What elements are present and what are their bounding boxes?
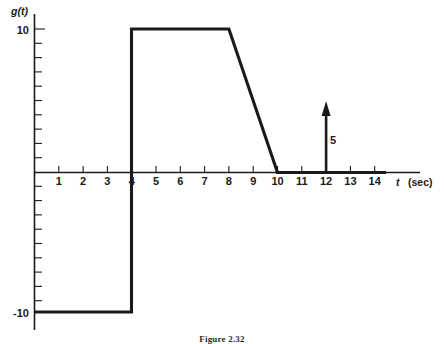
x-tick-label-12: 12 [320,175,332,187]
x-tick-label-14: 14 [369,175,382,187]
figure-caption: Figure 2.32 [0,333,444,344]
x-axis-title-group: t (sec) [396,172,432,189]
chart-plot: 5 1 2 3 4 5 6 7 8 9 10 11 12 13 14 10 -1… [0,0,444,344]
y-axis-title: g(t) [10,5,28,17]
x-tick-label-6: 6 [177,175,183,187]
impulse-weight-label: 5 [330,134,336,146]
x-tick-label-13: 13 [344,175,356,187]
x-tick-labels: 1 2 3 4 5 6 7 8 9 10 11 12 13 14 [56,175,382,187]
x-tick-label-8: 8 [226,175,232,187]
x-tick-label-4: 4 [129,175,136,187]
y-tick-label-neg10: -10 [13,307,29,319]
y-tick-labels: 10 -10 [13,24,29,319]
x-tick-label-7: 7 [202,175,208,187]
x-tick-label-2: 2 [80,175,86,187]
x-tick-label-9: 9 [250,175,256,187]
y-tick-label-10: 10 [17,24,29,36]
x-tick-label-3: 3 [104,175,110,187]
y-tick-marks [35,29,45,301]
x-tick-label-10: 10 [271,175,283,187]
x-tick-label-11: 11 [296,175,308,187]
figure-container: 5 1 2 3 4 5 6 7 8 9 10 11 12 13 14 10 -1… [0,0,444,344]
signal-curve-group [35,29,386,312]
x-axis-unit: (sec) [408,176,433,188]
x-tick-label-1: 1 [56,175,62,187]
impulse-arrow-group: 5 [322,101,336,173]
x-axis-title: t [396,176,400,188]
impulse-arrowhead [322,101,331,116]
x-tick-label-5: 5 [153,175,159,187]
